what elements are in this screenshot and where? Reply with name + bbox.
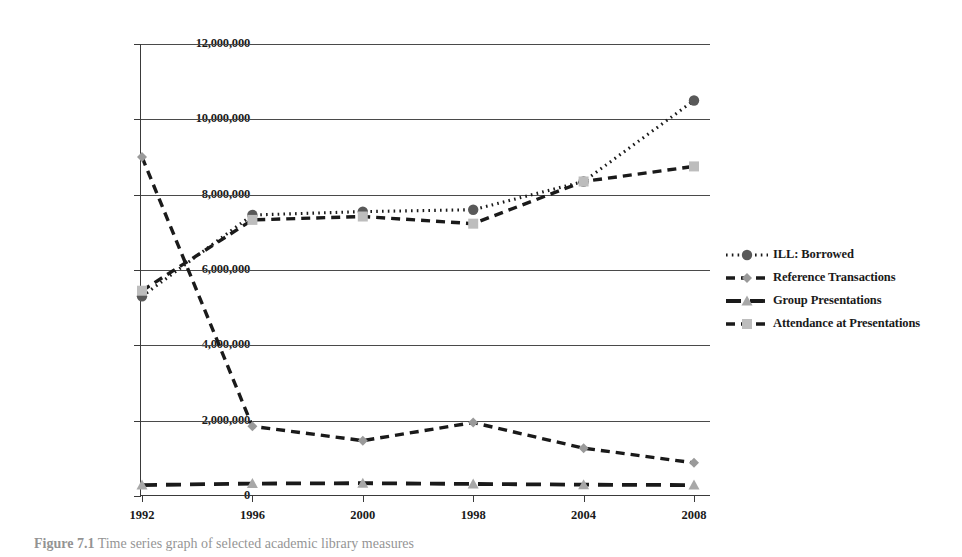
- legend-label: Attendance at Presentations: [773, 316, 920, 331]
- y-axis-tick: [134, 345, 141, 346]
- legend-swatch-icon: [725, 248, 769, 262]
- x-axis-tick: [363, 495, 364, 502]
- gridline: [140, 270, 710, 271]
- x-axis-tick-label: 2000: [350, 508, 375, 523]
- legend-swatch-icon: [725, 317, 769, 331]
- x-axis-tick: [252, 495, 253, 502]
- x-axis-tick: [142, 495, 143, 502]
- figure-caption-text: Time series graph of selected academic l…: [98, 536, 414, 551]
- x-axis-tick-label: 2004: [571, 508, 596, 523]
- x-axis-tick: [584, 495, 585, 502]
- x-axis-tick-label: 1996: [240, 508, 265, 523]
- y-axis-tick: [134, 119, 141, 120]
- y-axis-tick: [134, 270, 141, 271]
- chart-legend: ILL: BorrowedReference TransactionsGroup…: [725, 243, 955, 335]
- legend-label: Group Presentations: [773, 293, 881, 308]
- y-axis-tick: [134, 421, 141, 422]
- data-point-marker: [742, 249, 752, 259]
- figure-root: 02,000,0004,000,0006,000,0008,000,00010,…: [0, 0, 962, 557]
- y-axis-tick: [134, 44, 141, 45]
- gridline: [140, 195, 710, 196]
- legend-item[interactable]: Reference Transactions: [725, 266, 955, 289]
- gridline: [140, 44, 710, 45]
- legend-item[interactable]: ILL: Borrowed: [725, 243, 955, 266]
- figure-caption-label: Figure 7.1: [34, 536, 94, 551]
- legend-item[interactable]: Group Presentations: [725, 289, 955, 312]
- legend-swatch-icon: [725, 271, 769, 285]
- figure-caption: Figure 7.1 Time series graph of selected…: [34, 536, 414, 552]
- data-point-marker: [742, 273, 752, 283]
- plot-area: [140, 44, 710, 496]
- x-axis-tick: [694, 495, 695, 502]
- legend-swatch-icon: [725, 294, 769, 308]
- gridline: [140, 119, 710, 120]
- x-axis-line: [140, 495, 710, 496]
- y-axis-tick: [134, 496, 141, 497]
- legend-label: Reference Transactions: [773, 270, 895, 285]
- y-axis-tick: [134, 195, 141, 196]
- gridline: [140, 421, 710, 422]
- x-axis-tick-label: 1998: [461, 508, 486, 523]
- gridline: [140, 345, 710, 346]
- data-point-marker: [742, 319, 752, 329]
- x-axis-tick-label: 2008: [682, 508, 707, 523]
- legend-label: ILL: Borrowed: [773, 247, 854, 262]
- legend-item[interactable]: Attendance at Presentations: [725, 312, 955, 335]
- x-axis-tick: [473, 495, 474, 502]
- x-axis-tick-label: 1992: [130, 508, 155, 523]
